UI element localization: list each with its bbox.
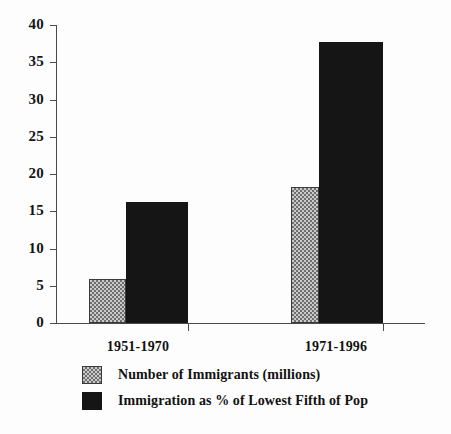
- legend-label: Number of Immigrants (millions): [118, 367, 320, 383]
- bars-layer: [0, 0, 451, 323]
- plot-area: 0510152025303540 1951-19701971-1996: [0, 0, 451, 340]
- bar-1971-1996-series-2: [319, 42, 383, 323]
- hatched-swatch: [82, 366, 102, 384]
- x-axis-line: [56, 323, 425, 324]
- x-axis-group-tick: [188, 324, 189, 331]
- y-tick-mark: [50, 323, 56, 324]
- x-axis-group-tick: [383, 324, 384, 331]
- bar-1951-1970-series-1: [89, 279, 126, 323]
- legend-label: Immigration as % of Lowest Fifth of Pop: [118, 393, 368, 409]
- y-tick: 0: [0, 323, 70, 324]
- bar-1971-1996-series-1: [291, 187, 319, 323]
- x-axis-category-label: 1971-1996: [276, 339, 396, 355]
- solid-black-swatch: [82, 392, 102, 410]
- legend-item: Immigration as % of Lowest Fifth of Pop: [82, 390, 412, 412]
- chart-page: 0510152025303540 1951-19701971-1996 Numb…: [0, 0, 451, 434]
- bar-1951-1970-series-2: [126, 202, 188, 323]
- legend-item: Number of Immigrants (millions): [82, 364, 412, 386]
- chart-legend: Number of Immigrants (millions)Immigrati…: [82, 364, 412, 416]
- x-axis-category-label: 1951-1970: [78, 339, 198, 355]
